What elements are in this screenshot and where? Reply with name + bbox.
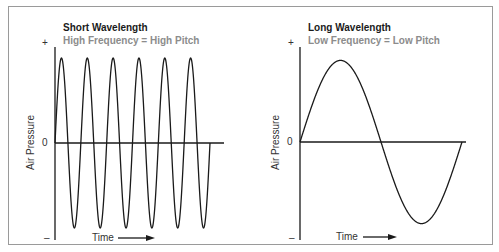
right-tick-plus: + (288, 37, 294, 48)
left-title: Short Wavelength (63, 22, 148, 33)
left-x-axis-label: Time (92, 232, 114, 243)
left-panel-axes (55, 47, 224, 241)
right-time-arrow-head (388, 234, 397, 240)
left-tick-zero: 0 (42, 137, 48, 148)
right-panel-axes (300, 47, 466, 240)
right-tick-zero: 0 (287, 136, 293, 147)
right-subtitle: Low Frequency = Low Pitch (308, 35, 440, 46)
right-y-axis-label: Air Pressure (270, 115, 281, 170)
left-subtitle: High Frequency = High Pitch (63, 35, 199, 46)
left-tick-minus: – (44, 232, 50, 243)
right-tick-minus: – (289, 232, 295, 243)
right-title: Long Wavelength (308, 22, 391, 33)
left-tick-plus: + (42, 37, 48, 48)
left-time-arrow-head (146, 235, 155, 241)
left-y-axis-label: Air Pressure (25, 115, 36, 170)
right-x-axis-label: Time (336, 231, 358, 242)
